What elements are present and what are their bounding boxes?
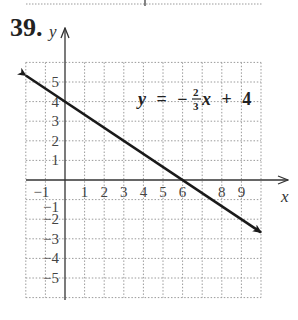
y-tick-label: 2 [52, 133, 60, 149]
y-tick-label: −5 [43, 270, 59, 286]
svg-text:x + 4: x + 4 [201, 89, 251, 109]
x-tick-label: 9 [238, 184, 246, 200]
y-tick-label: −4 [43, 250, 59, 266]
previous-figure-remnant [26, 0, 262, 6]
x-tick-label: 6 [179, 184, 187, 200]
equation-plus: + [222, 89, 232, 109]
equation-label: y = − 2 3 x + 4 [136, 86, 251, 112]
y-tick-label: −3 [43, 231, 59, 247]
x-tick-label: 1 [81, 184, 89, 200]
equation-var: x [201, 89, 211, 109]
x-tick-label: −1 [33, 184, 49, 200]
equation-constant: 4 [242, 89, 251, 109]
x-tick-label: 3 [120, 184, 128, 200]
x-tick-label: 8 [218, 184, 226, 200]
equation-equals: = [157, 89, 167, 109]
x-tick-label: 5 [159, 184, 167, 200]
y-tick-label: 5 [52, 74, 60, 90]
y-tick-label: 1 [52, 152, 60, 168]
svg-text:y = −: y = − [136, 89, 188, 109]
fraction-numerator: 2 [193, 86, 199, 98]
x-tick-label: 2 [100, 184, 108, 200]
y-tick-label: 3 [52, 113, 60, 129]
x-axis-label: x [280, 187, 289, 206]
equation-sign: − [177, 89, 187, 109]
x-tick-label: 4 [140, 184, 148, 200]
problem-number: 39. [10, 13, 43, 42]
y-tick-label: −2 [43, 211, 59, 227]
graph-figure: 39. y x −112345689 54321−1−2−3−4−5 y = −… [0, 0, 298, 320]
fraction-denominator: 3 [193, 100, 199, 112]
equation-lhs: y [136, 89, 147, 109]
y-axis-label: y [47, 22, 57, 41]
